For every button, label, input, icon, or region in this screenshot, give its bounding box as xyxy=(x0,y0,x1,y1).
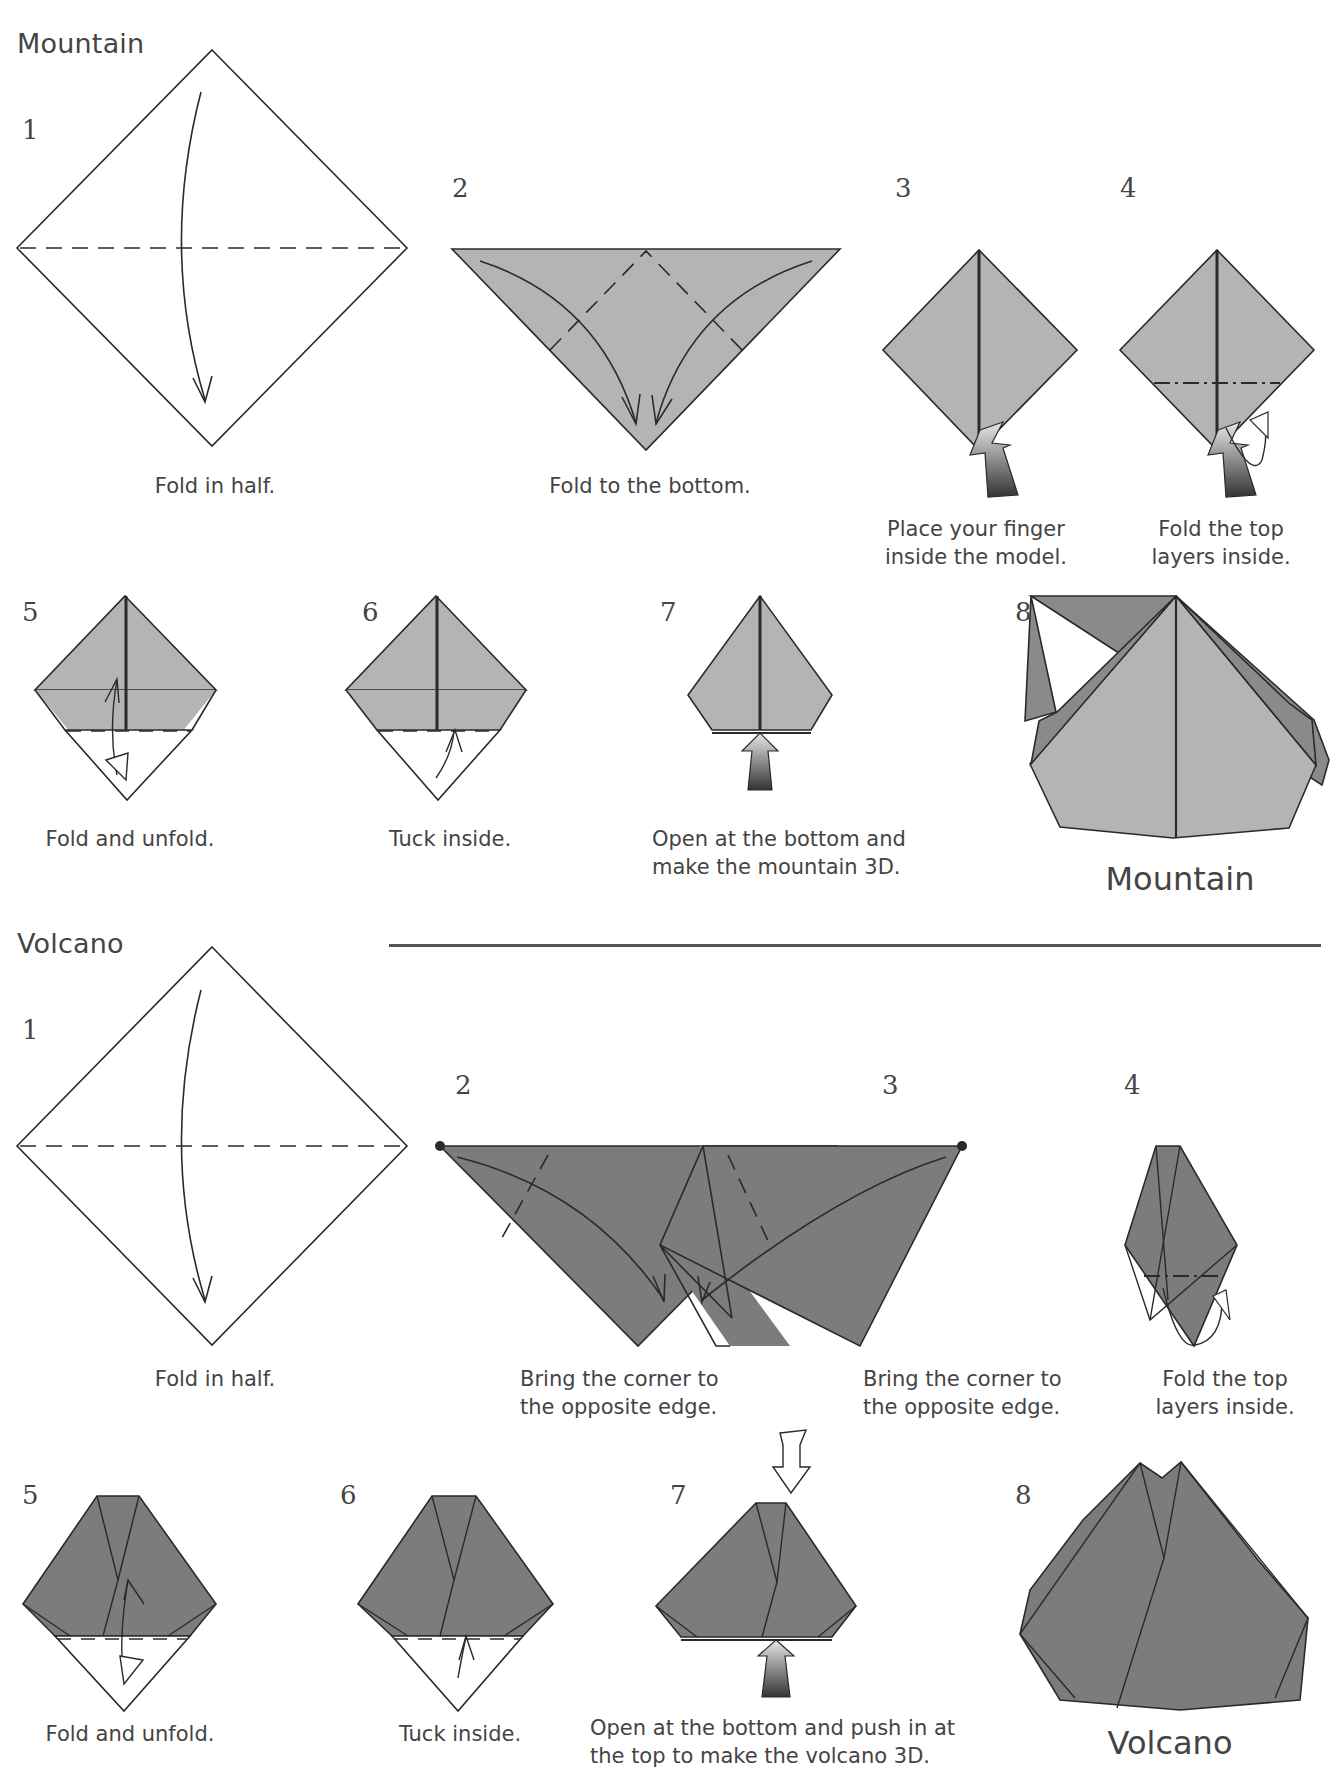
mountain-step6-caption: Tuck inside. xyxy=(360,825,540,853)
volcano-step-number: 1 xyxy=(22,1015,39,1045)
mountain-step-number: 8 xyxy=(1015,597,1032,627)
caption-line: make the mountain 3D. xyxy=(652,853,942,881)
caption-line: the opposite edge. xyxy=(863,1393,1103,1421)
volcano-step-number: 4 xyxy=(1124,1070,1141,1100)
mountain-step3-caption: Place your finger inside the model. xyxy=(866,515,1086,571)
section-title-mountain: Mountain xyxy=(17,28,144,59)
volcano-step1-caption: Fold in half. xyxy=(80,1365,350,1393)
volcano-step-number: 5 xyxy=(22,1480,39,1510)
volcano-step4-diagram xyxy=(1125,1146,1237,1346)
volcano-step6-caption: Tuck inside. xyxy=(370,1720,550,1748)
mountain-step-number: 1 xyxy=(22,115,39,145)
mountain-step5-caption: Fold and unfold. xyxy=(20,825,240,853)
mountain-step7-diagram xyxy=(688,596,832,790)
section-title-volcano: Volcano xyxy=(17,928,124,959)
caption-line: Fold the top xyxy=(1126,515,1316,543)
volcano-step6-diagram xyxy=(358,1496,553,1711)
mountain-step-number: 4 xyxy=(1120,173,1137,203)
caption-line: Bring the corner to xyxy=(863,1365,1103,1393)
caption-line: layers inside. xyxy=(1126,543,1316,571)
mountain-step1-caption: Fold in half. xyxy=(80,472,350,500)
volcano-step8-diagram xyxy=(1020,1462,1308,1710)
volcano-step-number: 6 xyxy=(340,1480,357,1510)
volcano-step-number: 3 xyxy=(882,1070,899,1100)
caption-line: Place your finger xyxy=(866,515,1086,543)
volcano-step7-diagram xyxy=(656,1430,856,1697)
mountain-step2-diagram xyxy=(452,249,840,450)
mountain-step5-diagram xyxy=(35,596,216,800)
mountain-step-number: 5 xyxy=(22,597,39,627)
caption-line: the opposite edge. xyxy=(520,1393,760,1421)
volcano-step5-diagram xyxy=(23,1496,216,1711)
mountain-step-number: 3 xyxy=(895,173,912,203)
mountain-step7-caption: Open at the bottom and make the mountain… xyxy=(652,825,942,881)
mountain-step3-diagram xyxy=(883,250,1077,497)
mountain-step-number: 2 xyxy=(452,173,469,203)
volcano-step3-diagram xyxy=(660,1141,967,1346)
mountain-step8-diagram xyxy=(1025,596,1329,838)
mountain-step4-caption: Fold the top layers inside. xyxy=(1126,515,1316,571)
caption-line: inside the model. xyxy=(866,543,1086,571)
volcano-step3-caption: Bring the corner to the opposite edge. xyxy=(863,1365,1103,1421)
caption-line: Bring the corner to xyxy=(520,1365,760,1393)
volcano-step7-caption: Open at the bottom and push in at the to… xyxy=(590,1714,1010,1770)
mountain-step4-diagram xyxy=(1120,250,1314,497)
volcano-step2-caption: Bring the corner to the opposite edge. xyxy=(520,1365,760,1421)
volcano-step-number: 7 xyxy=(670,1480,687,1510)
caption-line: Open at the bottom and xyxy=(652,825,942,853)
mountain-step-number: 6 xyxy=(362,597,379,627)
mountain-step-number: 7 xyxy=(660,597,677,627)
volcano-step4-caption: Fold the top layers inside. xyxy=(1130,1365,1320,1421)
volcano-step-number: 2 xyxy=(455,1070,472,1100)
section-divider xyxy=(389,944,1321,947)
mountain-final-name: Mountain xyxy=(1060,860,1300,898)
volcano-step1-diagram xyxy=(17,947,407,1345)
caption-line: Open at the bottom and push in at xyxy=(590,1714,1010,1742)
mountain-step1-diagram xyxy=(17,50,407,446)
caption-line: the top to make the volcano 3D. xyxy=(590,1742,1010,1770)
caption-line: Fold the top xyxy=(1130,1365,1320,1393)
volcano-step5-caption: Fold and unfold. xyxy=(20,1720,240,1748)
caption-line: layers inside. xyxy=(1130,1393,1320,1421)
volcano-final-name: Volcano xyxy=(1060,1724,1280,1762)
volcano-step-number: 8 xyxy=(1015,1480,1032,1510)
mountain-step2-caption: Fold to the bottom. xyxy=(510,472,790,500)
